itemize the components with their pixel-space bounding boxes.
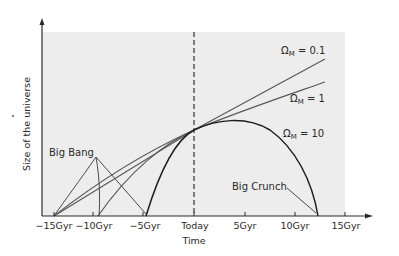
x-tick-label: 15Gyr <box>332 221 361 231</box>
omega-subscript: M <box>298 98 304 106</box>
omega-value: = 0.1 <box>298 45 325 56</box>
omega-symbol: Ω <box>283 128 291 139</box>
chart-canvas <box>0 0 399 256</box>
x-tick-label: Today <box>181 221 208 231</box>
legend-omega-10: ΩM = 10 <box>283 129 324 141</box>
omega-symbol: Ω <box>290 93 298 104</box>
legend-omega-0.1: ΩM = 0.1 <box>281 46 325 58</box>
x-axis-title: Time <box>182 235 205 246</box>
x-tick-label: 10Gyr <box>281 221 310 231</box>
big-crunch-label: Big Crunch <box>232 182 287 192</box>
omega-symbol: Ω <box>281 45 289 56</box>
y-axis-arrow-icon <box>40 18 45 25</box>
x-tick-label: 5Gyr <box>234 221 257 231</box>
stray-dot <box>12 115 14 117</box>
x-tick-label: −5Gyr <box>130 221 161 231</box>
x-axis-arrow-icon <box>365 214 373 219</box>
x-tick-label: −10Gyr <box>76 221 113 231</box>
omega-value: = 10 <box>300 128 324 139</box>
omega-subscript: M <box>291 133 297 141</box>
legend-omega-1: ΩM = 1 <box>290 94 325 106</box>
y-axis-title: Size of the universe <box>21 77 32 171</box>
x-tick-label: −15Gyr <box>36 221 73 231</box>
omega-subscript: M <box>289 50 295 58</box>
big-bang-label: Big Bang <box>49 148 94 158</box>
omega-value: = 1 <box>307 93 325 104</box>
